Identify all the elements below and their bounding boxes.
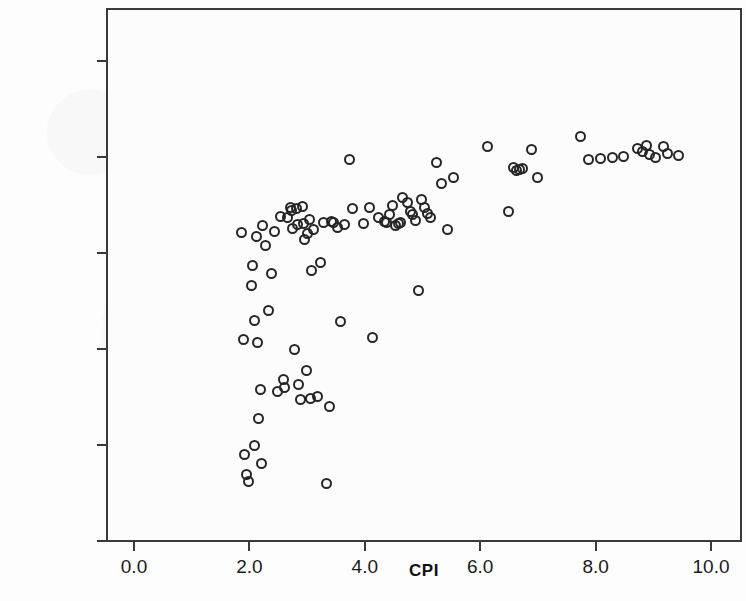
x-tick-label: 0.0: [121, 556, 147, 578]
x-tick-mark: [710, 542, 712, 551]
data-point: [583, 154, 594, 165]
data-point: [301, 365, 312, 376]
data-point: [297, 201, 308, 212]
data-point: [252, 337, 263, 348]
data-point: [335, 316, 346, 327]
data-point: [246, 280, 257, 291]
data-point: [247, 260, 258, 271]
data-point: [395, 217, 406, 228]
x-tick-label: 6.0: [467, 556, 493, 578]
x-tick-label: 8.0: [582, 556, 608, 578]
data-point: [293, 379, 304, 390]
data-point: [324, 401, 335, 412]
data-point: [413, 285, 424, 296]
x-tick-mark: [133, 542, 135, 551]
data-point: [269, 226, 280, 237]
data-point: [251, 231, 262, 242]
data-point: [249, 440, 260, 451]
data-point: [243, 476, 254, 487]
data-point: [410, 215, 421, 226]
data-point: [575, 131, 586, 142]
data-point: [249, 315, 260, 326]
data-point: [315, 257, 326, 268]
x-axis-title: CPI: [409, 561, 439, 581]
data-point: [662, 148, 673, 159]
x-tick-mark: [248, 542, 250, 551]
x-tick-label: 4.0: [352, 556, 378, 578]
data-point: [279, 382, 290, 393]
data-point: [431, 157, 442, 168]
data-point: [358, 218, 369, 229]
data-point: [236, 227, 247, 238]
data-point: [364, 202, 375, 213]
x-tick-label: 2.0: [236, 556, 262, 578]
data-point: [238, 334, 249, 345]
data-point: [344, 154, 355, 165]
data-point: [607, 152, 618, 163]
x-tick-label: 10.0: [693, 556, 730, 578]
x-tick-mark: [595, 542, 597, 551]
data-point: [321, 478, 332, 489]
data-point: [650, 152, 661, 163]
data-point: [289, 344, 300, 355]
data-point: [367, 332, 378, 343]
data-point: [256, 458, 267, 469]
data-point: [532, 172, 543, 183]
data-point: [339, 219, 350, 230]
data-point: [442, 224, 453, 235]
data-point: [526, 144, 537, 155]
x-tick-mark: [364, 542, 366, 551]
data-point: [618, 151, 629, 162]
scatter-plot-figure: Life expectancy at birth, total (years) …: [0, 0, 746, 601]
data-point: [257, 220, 268, 231]
data-point: [255, 384, 266, 395]
data-point: [263, 305, 274, 316]
data-point: [482, 141, 493, 152]
data-point: [436, 178, 447, 189]
data-point: [312, 391, 323, 402]
data-point: [308, 224, 319, 235]
data-point-layer: [108, 10, 740, 540]
data-point: [673, 150, 684, 161]
data-point: [595, 153, 606, 164]
data-point: [517, 163, 528, 174]
data-point: [239, 449, 250, 460]
data-point: [260, 240, 271, 251]
data-point: [503, 206, 514, 217]
data-point: [347, 203, 358, 214]
data-point: [253, 413, 264, 424]
data-point: [425, 212, 436, 223]
data-point: [266, 268, 277, 279]
data-point: [387, 200, 398, 211]
data-point: [448, 172, 459, 183]
plot-area-frame: [106, 8, 742, 542]
x-tick-mark: [479, 542, 481, 551]
